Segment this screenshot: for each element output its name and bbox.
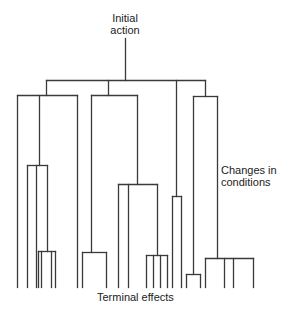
root-label: Initial action xyxy=(100,12,150,36)
changes-label: Changes in conditions xyxy=(221,164,277,188)
tree-branches xyxy=(0,0,288,311)
tree-diagram: Initial action Changes in conditions Ter… xyxy=(0,0,288,311)
root-label-line2: action xyxy=(100,24,150,36)
terminal-label: Terminal effects xyxy=(97,291,174,303)
root-label-line1: Initial xyxy=(100,12,150,24)
changes-label-line2: conditions xyxy=(221,176,277,188)
changes-label-line1: Changes in xyxy=(221,164,277,176)
